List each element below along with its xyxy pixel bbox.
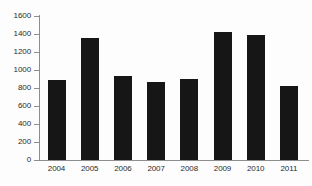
x-axis-tick-label: 2006 [106, 164, 140, 173]
x-axis-tick-label: 2010 [239, 164, 273, 173]
bar-column [114, 16, 132, 160]
y-axis-tick [34, 106, 39, 107]
y-axis-tick-label: 1600 [14, 12, 31, 20]
y-axis-tick-label: 1200 [14, 48, 31, 56]
plot-area [40, 16, 308, 160]
bar-column [280, 16, 298, 160]
y-axis-tick [34, 124, 39, 125]
bar [280, 86, 298, 160]
y-axis-tick [34, 88, 39, 89]
y-axis-tick-label: 400 [18, 120, 31, 128]
y-axis-tick-label: 200 [18, 138, 31, 146]
bar-chart: 02004006008001000120014001600 2004200520… [0, 0, 312, 186]
y-axis-tick-label: 600 [18, 102, 31, 110]
y-axis-tick [34, 142, 39, 143]
y-axis-tick-label: 0 [27, 156, 31, 164]
bar-column [214, 16, 232, 160]
x-axis-tick-label: 2008 [172, 164, 206, 173]
y-axis-tick-label: 800 [18, 84, 31, 92]
bar [81, 38, 99, 160]
y-axis-tick [34, 160, 39, 161]
bar [214, 32, 232, 160]
y-axis-tick [34, 52, 39, 53]
x-axis-line [39, 160, 309, 161]
y-axis-tick [34, 16, 39, 17]
x-axis-tick-label: 2011 [272, 164, 306, 173]
bar [147, 82, 165, 160]
y-axis-tick-label: 1400 [14, 30, 31, 38]
bar-column [81, 16, 99, 160]
bar [247, 35, 265, 160]
y-axis-tick-label: 1000 [14, 66, 31, 74]
x-axis-tick-label: 2007 [139, 164, 173, 173]
bar-column [247, 16, 265, 160]
bar-column [147, 16, 165, 160]
x-axis-tick-label: 2009 [206, 164, 240, 173]
bar [114, 76, 132, 160]
x-axis-tick-label: 2005 [73, 164, 107, 173]
bar-column [48, 16, 66, 160]
bar [180, 79, 198, 160]
bar-column [180, 16, 198, 160]
y-axis-tick [34, 70, 39, 71]
bar [48, 80, 66, 160]
x-axis-tick-label: 2004 [40, 164, 74, 173]
y-axis-tick [34, 34, 39, 35]
